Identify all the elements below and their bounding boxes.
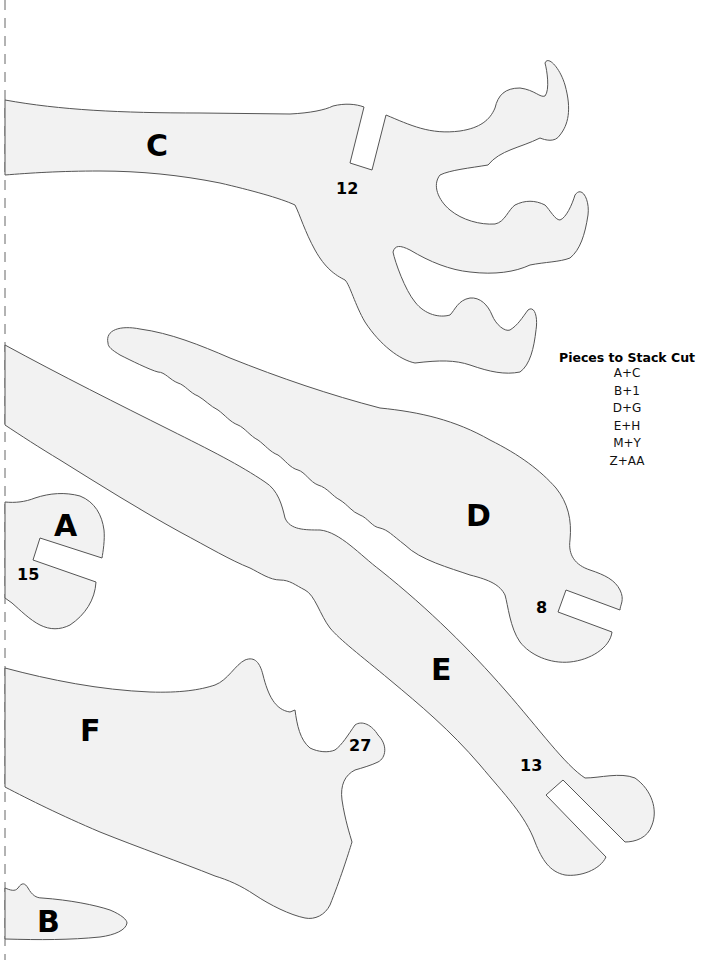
piece-c-letter: C xyxy=(146,131,168,161)
stack-cut-item: D+G xyxy=(552,400,702,418)
stack-cut-item: E+H xyxy=(552,418,702,436)
stack-cut-item: Z+AA xyxy=(552,453,702,471)
stack-cut-legend: Pieces to Stack Cut A+C B+1 D+G E+H M+Y … xyxy=(552,350,702,470)
piece-e-slot-number: 13 xyxy=(520,758,542,774)
piece-c-slot-number: 12 xyxy=(336,181,358,197)
stack-cut-title: Pieces to Stack Cut xyxy=(552,350,702,365)
stack-cut-item: A+C xyxy=(552,365,702,383)
piece-e-letter: E xyxy=(431,655,452,685)
piece-a-letter: A xyxy=(54,511,77,541)
piece-d-letter: D xyxy=(466,501,491,531)
piece-d-slot-number: 8 xyxy=(536,600,547,616)
piece-c-outline xyxy=(5,61,588,374)
piece-f-letter: F xyxy=(80,716,101,746)
piece-b-outline xyxy=(5,884,127,940)
pattern-sheet xyxy=(0,0,707,960)
piece-f-slot-number: 27 xyxy=(349,738,371,754)
stack-cut-item: B+1 xyxy=(552,383,702,401)
stack-cut-item: M+Y xyxy=(552,435,702,453)
piece-a-slot-number: 15 xyxy=(17,567,39,583)
piece-f-outline xyxy=(5,659,385,919)
piece-b-letter: B xyxy=(37,907,60,937)
